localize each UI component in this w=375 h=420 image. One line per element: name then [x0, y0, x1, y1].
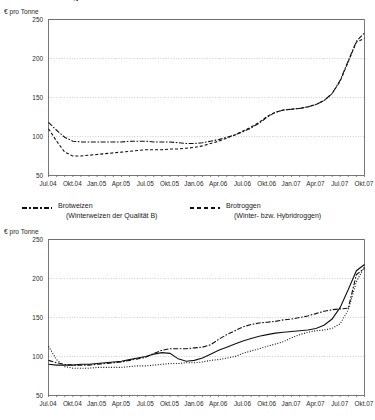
x-axis-label: Apr.06 — [209, 400, 227, 407]
y-axis-label: 50 — [21, 172, 43, 179]
x-axis-label: Apr.05 — [112, 180, 130, 187]
x-axis-label: Jul.07 — [331, 180, 348, 187]
legend-sublabel-brotweizen: (Winterweizen der Qualität B) — [66, 212, 157, 219]
y-axis-label: 50 — [21, 392, 43, 399]
x-axis-label: Apr.07 — [306, 180, 324, 187]
x-axis-label: Jul.07 — [331, 400, 348, 407]
chart-bottom-plot: 50100150200250Jul.04Okt.04Jan.05Apr.05Ju… — [48, 239, 366, 397]
x-axis-label: Apr.07 — [306, 400, 324, 407]
series-line-3 — [49, 264, 365, 365]
y-axis-label: 250 — [21, 236, 43, 243]
x-axis-label: Jan.05 — [87, 180, 106, 187]
page-title: Preisentwicklung in Deutschland — [3, 0, 147, 1]
x-axis-label: Okt.07 — [355, 180, 374, 187]
legend-label-brotroggen: Brotroggen — [226, 202, 261, 209]
chart-top-plot: 50100150200250Jul.04Okt.04Jan.05Apr.05Ju… — [48, 19, 366, 177]
x-axis-label: Okt.04 — [63, 180, 82, 187]
series-line-2 — [49, 38, 365, 156]
x-axis-label: Jan.07 — [281, 180, 300, 187]
x-axis-label: Okt.05 — [160, 180, 179, 187]
chart-bottom-unit-label: € pro Tonne — [4, 228, 39, 235]
y-axis-label: 150 — [21, 94, 43, 101]
x-axis-label: Okt.07 — [355, 400, 374, 407]
legend-label-brotweizen: Brotweizen — [58, 202, 93, 209]
x-axis-label: Okt.06 — [257, 400, 276, 407]
legend-line-dash-dot — [22, 207, 52, 209]
y-axis-label: 200 — [21, 55, 43, 62]
chart-top-unit-label: € pro Tonne — [4, 8, 39, 15]
x-axis-label: Jul.04 — [39, 400, 56, 407]
x-axis-label: Okt.05 — [160, 400, 179, 407]
x-axis-label: Jan.06 — [184, 180, 203, 187]
x-axis-label: Jul.05 — [137, 180, 154, 187]
y-axis-label: 150 — [21, 314, 43, 321]
x-axis-label: Apr.06 — [209, 180, 227, 187]
chart-legend: Brotweizen (Winterweizen der Qualität B)… — [0, 203, 375, 225]
x-axis-label: Jan.07 — [281, 400, 300, 407]
legend-sublabel-brotroggen: (Winter- bzw. Hybridroggen) — [234, 212, 321, 219]
y-axis-label: 250 — [21, 16, 43, 23]
y-axis-label: 100 — [21, 133, 43, 140]
x-axis-label: Okt.04 — [63, 400, 82, 407]
chart-page: Preisentwicklung in Deutschland € pro To… — [0, 0, 375, 420]
y-axis-label: 200 — [21, 275, 43, 282]
x-axis-label: Okt.06 — [257, 180, 276, 187]
x-axis-label: Jul.06 — [234, 180, 251, 187]
plot-area — [48, 239, 366, 397]
plot-area — [48, 19, 366, 177]
legend-line-dashed — [190, 207, 220, 209]
x-axis-label: Jul.05 — [137, 400, 154, 407]
x-axis-label: Jan.05 — [87, 400, 106, 407]
y-axis-label: 100 — [21, 353, 43, 360]
x-axis-label: Apr.05 — [112, 400, 130, 407]
x-axis-label: Jan.06 — [184, 400, 203, 407]
x-axis-label: Jul.06 — [234, 400, 251, 407]
series-line-1 — [49, 33, 365, 144]
series-line-1 — [49, 268, 365, 365]
x-axis-label: Jul.04 — [39, 180, 56, 187]
